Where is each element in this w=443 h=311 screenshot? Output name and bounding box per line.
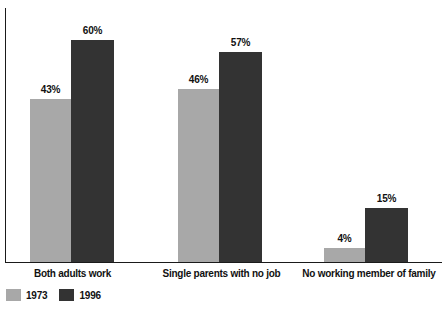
bar-1996-no-working-member bbox=[365, 208, 408, 262]
bar-1996-both-adults-work bbox=[71, 40, 114, 262]
bar-value-1973-no-working-member: 4% bbox=[324, 233, 365, 244]
bar-value-1996-no-working-member: 15% bbox=[365, 193, 408, 204]
category-label-single-parents-no-job: Single parents with no job bbox=[148, 268, 295, 279]
legend-swatch-1996-icon bbox=[59, 289, 74, 301]
bar-value-1973-both-adults-work: 43% bbox=[30, 84, 71, 95]
x-axis-line bbox=[5, 262, 442, 263]
bar-value-1973-single-parents-no-job: 46% bbox=[178, 74, 219, 85]
bar-value-1996-both-adults-work: 60% bbox=[71, 25, 114, 36]
bar-1973-single-parents-no-job bbox=[178, 89, 219, 262]
legend-label-1973: 1973 bbox=[26, 290, 47, 301]
legend-swatch-1973-icon bbox=[6, 289, 21, 301]
legend-item-1973: 1973 bbox=[6, 289, 47, 301]
plot-area: 43% 60% 46% 57% 4% 15% bbox=[0, 0, 443, 262]
bar-chart: 43% 60% 46% 57% 4% 15% Both adults work … bbox=[0, 0, 443, 311]
bar-1996-single-parents-no-job bbox=[219, 52, 262, 262]
legend-label-1996: 1996 bbox=[79, 290, 100, 301]
legend-item-1996: 1996 bbox=[59, 289, 100, 301]
bar-1973-both-adults-work bbox=[30, 99, 71, 262]
category-label-both-adults-work: Both adults work bbox=[0, 268, 145, 279]
bar-1973-no-working-member bbox=[324, 248, 365, 262]
bar-value-1996-single-parents-no-job: 57% bbox=[219, 37, 262, 48]
legend: 1973 1996 bbox=[6, 289, 101, 301]
category-label-no-working-member: No working member of family bbox=[295, 268, 443, 279]
